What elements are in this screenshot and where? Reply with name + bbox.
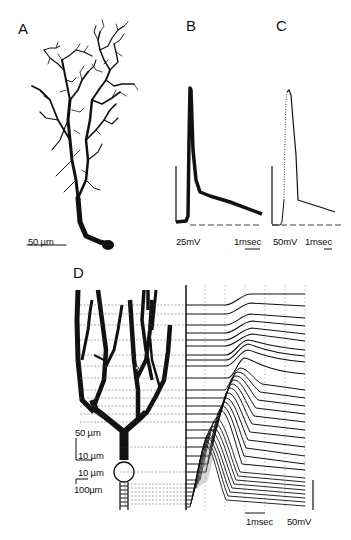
trace-panel-d (186, 285, 313, 513)
figure-graphics (0, 0, 351, 540)
compartment-model-d (76, 290, 170, 510)
trace-panel-c (272, 90, 342, 249)
trace-panel-b (176, 88, 262, 249)
neuron-drawing-a (27, 20, 138, 250)
